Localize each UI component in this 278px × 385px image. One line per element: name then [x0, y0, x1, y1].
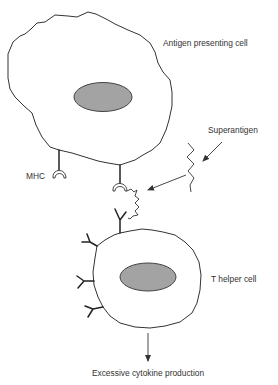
- diagram-canvas: Antigen presenting cell MHC Superantigen…: [0, 0, 278, 385]
- tcr-receptor-left-3: [85, 306, 103, 317]
- arrow-superantigen-label: [203, 142, 222, 161]
- tcr-receptor-left-1: [82, 234, 97, 246]
- label-outcome: Excessive cytokine production: [92, 368, 205, 378]
- arrow-superantigen-binding: [148, 175, 186, 190]
- mhc-receptor-left: [53, 150, 66, 178]
- apc-nucleus: [74, 83, 132, 112]
- label-superantigen: Superantigen: [208, 125, 258, 135]
- mhc-receptor-right: [113, 165, 127, 191]
- label-mhc: MHC: [26, 171, 45, 181]
- superantigen-free: [187, 143, 194, 192]
- t-helper-cell: [93, 229, 201, 328]
- superantigen-bound: [127, 189, 139, 219]
- label-antigen-presenting-cell: Antigen presenting cell: [163, 38, 248, 48]
- label-t-helper-cell: T helper cell: [211, 274, 257, 284]
- antigen-presenting-cell: [8, 12, 172, 165]
- t-cell-nucleus: [120, 263, 176, 291]
- tcr-receptor-top: [115, 209, 126, 233]
- tcr-receptor-left-2: [77, 276, 94, 288]
